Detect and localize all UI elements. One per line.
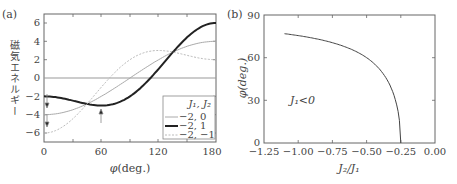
ytick-label: −4: [25, 109, 40, 120]
ytick-label: 2: [34, 54, 40, 65]
curve-j2-1: [44, 23, 216, 106]
panel-b-annotation: J₁<0: [288, 94, 315, 107]
panel-a: (a) 磁気エネルギー 6 4 2 0 −2 −4 −6: [2, 8, 222, 175]
panel-a-label: (a): [2, 8, 17, 21]
panel-b-xtick-labels: −1.25 −1.00 −0.75 −0.50 −0.25 0.00: [249, 146, 446, 157]
panel-a-ytick-labels: 6 4 2 0 −2 −4 −6: [25, 17, 40, 138]
xtick-label: 120: [148, 146, 167, 157]
panel-b-ytick-labels: 90 60 30 0: [247, 10, 260, 148]
ytick-label: 4: [34, 36, 40, 47]
xtick-label: −1.25: [249, 146, 280, 157]
ytick-label: −2: [25, 91, 40, 102]
legend-item: −2, −1: [179, 129, 215, 140]
phase-boundary-curve: [285, 34, 401, 143]
panel-b-ylabel: φ(deg.): [236, 58, 249, 98]
xtick-label: −0.50: [351, 146, 382, 157]
panel-a-xlabel: φ(deg.): [110, 162, 150, 175]
ytick-label: 0: [34, 72, 40, 83]
arrow-icon: [45, 94, 103, 127]
panel-b-label: (b): [227, 8, 243, 21]
xtick-label: 0: [41, 146, 47, 157]
panel-b-xlabel: J₂/J₁: [336, 162, 359, 175]
panel-a-legend: J₁, J₂ −2, 0 −2, 1 −2, −1: [163, 96, 215, 140]
legend-title: J₁, J₂: [187, 98, 211, 109]
panel-a-xtick-labels: 0 60 120 180: [41, 146, 222, 157]
xtick-label: −0.75: [317, 146, 348, 157]
xtick-label: 180: [202, 146, 221, 157]
ytick-label: 60: [247, 52, 260, 63]
xtick-label: −0.25: [385, 146, 416, 157]
ytick-label: 6: [34, 17, 40, 28]
ytick-label: 90: [247, 10, 260, 21]
ytick-label: 30: [247, 95, 260, 106]
xtick-label: 60: [95, 146, 108, 157]
xtick-label: −1.00: [283, 146, 314, 157]
xtick-label: 0.00: [424, 146, 446, 157]
figure: (a) 磁気エネルギー 6 4 2 0 −2 −4 −6: [0, 0, 457, 184]
ytick-label: −6: [25, 127, 40, 138]
panel-b: (b) φ(deg.) 90 60 30 0 −1.25 −1.00 −0.75…: [227, 8, 446, 175]
panel-a-ylabel: 磁気エネルギー: [9, 39, 20, 117]
